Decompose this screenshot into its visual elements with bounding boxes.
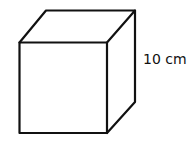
cube-top-face (20, 11, 136, 43)
cube-diagram (0, 0, 194, 157)
cube-front-face (20, 43, 108, 134)
edge-length-label: 10 cm (143, 51, 187, 67)
cube-side-face (107, 11, 135, 134)
